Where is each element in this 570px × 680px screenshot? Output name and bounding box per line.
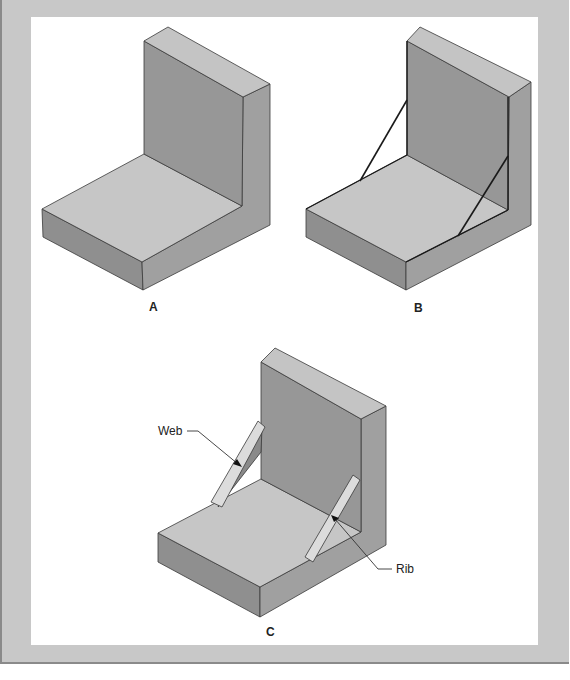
web-callout-label: Web: [158, 424, 182, 438]
web-leader-line: [187, 431, 238, 464]
figure-b: [306, 27, 531, 290]
figure-a: [42, 27, 270, 290]
figure-c: [158, 348, 386, 617]
figure-c-label: C: [266, 625, 275, 639]
figure-a-label: A: [149, 300, 158, 314]
rib-callout-label: Rib: [396, 562, 414, 576]
figure-drawings: [0, 0, 570, 680]
figure-b-label: B: [414, 301, 423, 315]
